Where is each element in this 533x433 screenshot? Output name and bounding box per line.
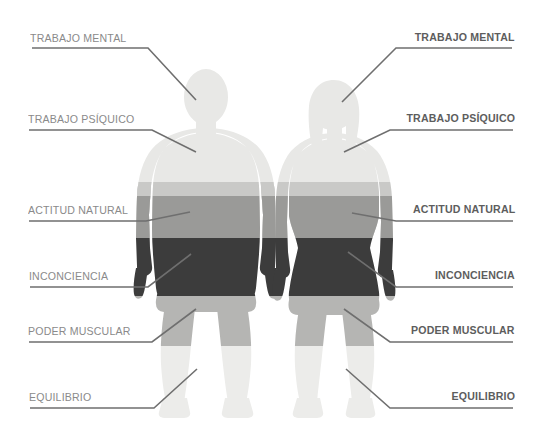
leader-right-trabajo-psiquico — [344, 130, 513, 152]
leader-left-trabajo-mental — [32, 48, 196, 100]
label-right-actitud-natural: ACTITUD NATURAL — [404, 204, 515, 216]
leader-right-trabajo-mental — [342, 48, 512, 102]
label-right-equilibrio-text: EQUILIBRIO — [451, 391, 515, 403]
leader-lines — [0, 0, 533, 433]
label-right-trabajo-mental-text: TRABAJO MENTAL — [415, 32, 515, 44]
label-left-inconciencia-text: INCONCIENCIA — [29, 271, 108, 283]
label-left-trabajo-mental: TRABAJO MENTAL — [30, 33, 135, 45]
label-left-poder-muscular-text: PODER MUSCULAR — [28, 326, 131, 338]
label-left-equilibrio-text: EQUILIBRIO — [29, 392, 91, 404]
label-left-poder-muscular: PODER MUSCULAR — [28, 326, 139, 338]
label-left-trabajo-psiquico-text: TRABAJO PSÍQUICO — [28, 114, 134, 126]
label-left-trabajo-mental-text: TRABAJO MENTAL — [30, 33, 126, 45]
label-right-inconciencia-text: INCONCIENCIA — [435, 270, 515, 282]
label-right-trabajo-psiquico: TRABAJO PSÍQUICO — [397, 113, 515, 125]
label-right-poder-muscular: PODER MUSCULAR — [402, 325, 515, 337]
label-left-actitud-natural: ACTITUD NATURAL — [28, 205, 137, 217]
diagram-canvas: TRABAJO MENTAL TRABAJO PSÍQUICO ACTITUD … — [0, 0, 533, 433]
label-right-equilibrio: EQUILIBRIO — [446, 391, 515, 403]
leader-left-trabajo-psiquico — [29, 130, 196, 152]
label-right-trabajo-psiquico-text: TRABAJO PSÍQUICO — [406, 113, 515, 125]
label-left-actitud-natural-text: ACTITUD NATURAL — [28, 205, 128, 217]
label-right-inconciencia: INCONCIENCIA — [428, 270, 515, 282]
label-right-actitud-natural-text: ACTITUD NATURAL — [413, 204, 515, 216]
label-left-trabajo-psiquico: TRABAJO PSÍQUICO — [28, 114, 144, 126]
label-right-poder-muscular-text: PODER MUSCULAR — [411, 325, 515, 337]
label-right-trabajo-mental: TRABAJO MENTAL — [406, 32, 515, 44]
label-left-equilibrio: EQUILIBRIO — [29, 392, 97, 404]
label-left-inconciencia: INCONCIENCIA — [29, 271, 115, 283]
